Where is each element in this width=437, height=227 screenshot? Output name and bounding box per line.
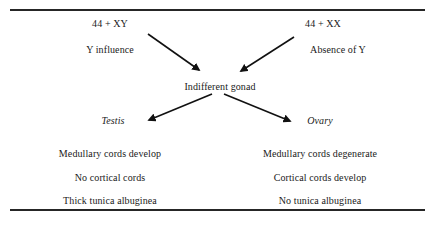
female-trait-3: No tunica albuginea xyxy=(279,195,361,206)
male-trait-2: No cortical cords xyxy=(75,172,146,183)
arrow-xy-to-gonad xyxy=(148,34,199,70)
arrow-gonad-to-testis xyxy=(149,94,212,120)
node-male-factor: Y influence xyxy=(86,44,134,55)
node-ovary: Ovary xyxy=(307,115,333,126)
arrow-gonad-to-ovary xyxy=(224,94,290,121)
node-testis: Testis xyxy=(101,115,124,126)
arrow-layer xyxy=(0,0,437,227)
node-female-factor: Absence of Y xyxy=(310,44,366,55)
male-trait-1: Medullary cords develop xyxy=(59,148,161,159)
node-indifferent-gonad: Indifferent gonad xyxy=(184,81,255,92)
node-female-karyotype: 44 + XX xyxy=(305,18,341,29)
node-male-karyotype: 44 + XY xyxy=(92,18,128,29)
female-trait-1: Medullary cords degenerate xyxy=(263,148,377,159)
female-trait-2: Cortical cords develop xyxy=(274,172,367,183)
bottom-horizontal-rule xyxy=(10,209,425,211)
top-horizontal-rule xyxy=(10,9,425,11)
arrow-xx-to-gonad xyxy=(241,37,294,71)
diagram-figure: 44 + XY 44 + XX Y influence Absence of Y… xyxy=(0,0,437,227)
male-trait-3: Thick tunica albuginea xyxy=(63,195,157,206)
